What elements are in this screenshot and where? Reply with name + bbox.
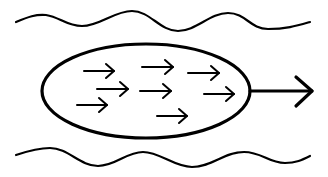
top-wavy-boundary [16,11,310,31]
particle-arrow-icon [140,84,171,98]
particle-arrow-icon [77,98,107,112]
particle-arrow-icon [157,109,187,123]
main-flow-arrow-icon [250,77,312,106]
particle-arrows-group [77,60,234,123]
particle-arrow-icon [204,87,234,101]
particle-arrow-icon [84,64,114,78]
particle-arrow-icon [188,66,219,80]
particle-arrow-icon [97,82,128,96]
particle-arrow-icon [142,60,173,74]
flow-diagram [0,0,328,177]
bottom-wavy-boundary [16,148,310,167]
